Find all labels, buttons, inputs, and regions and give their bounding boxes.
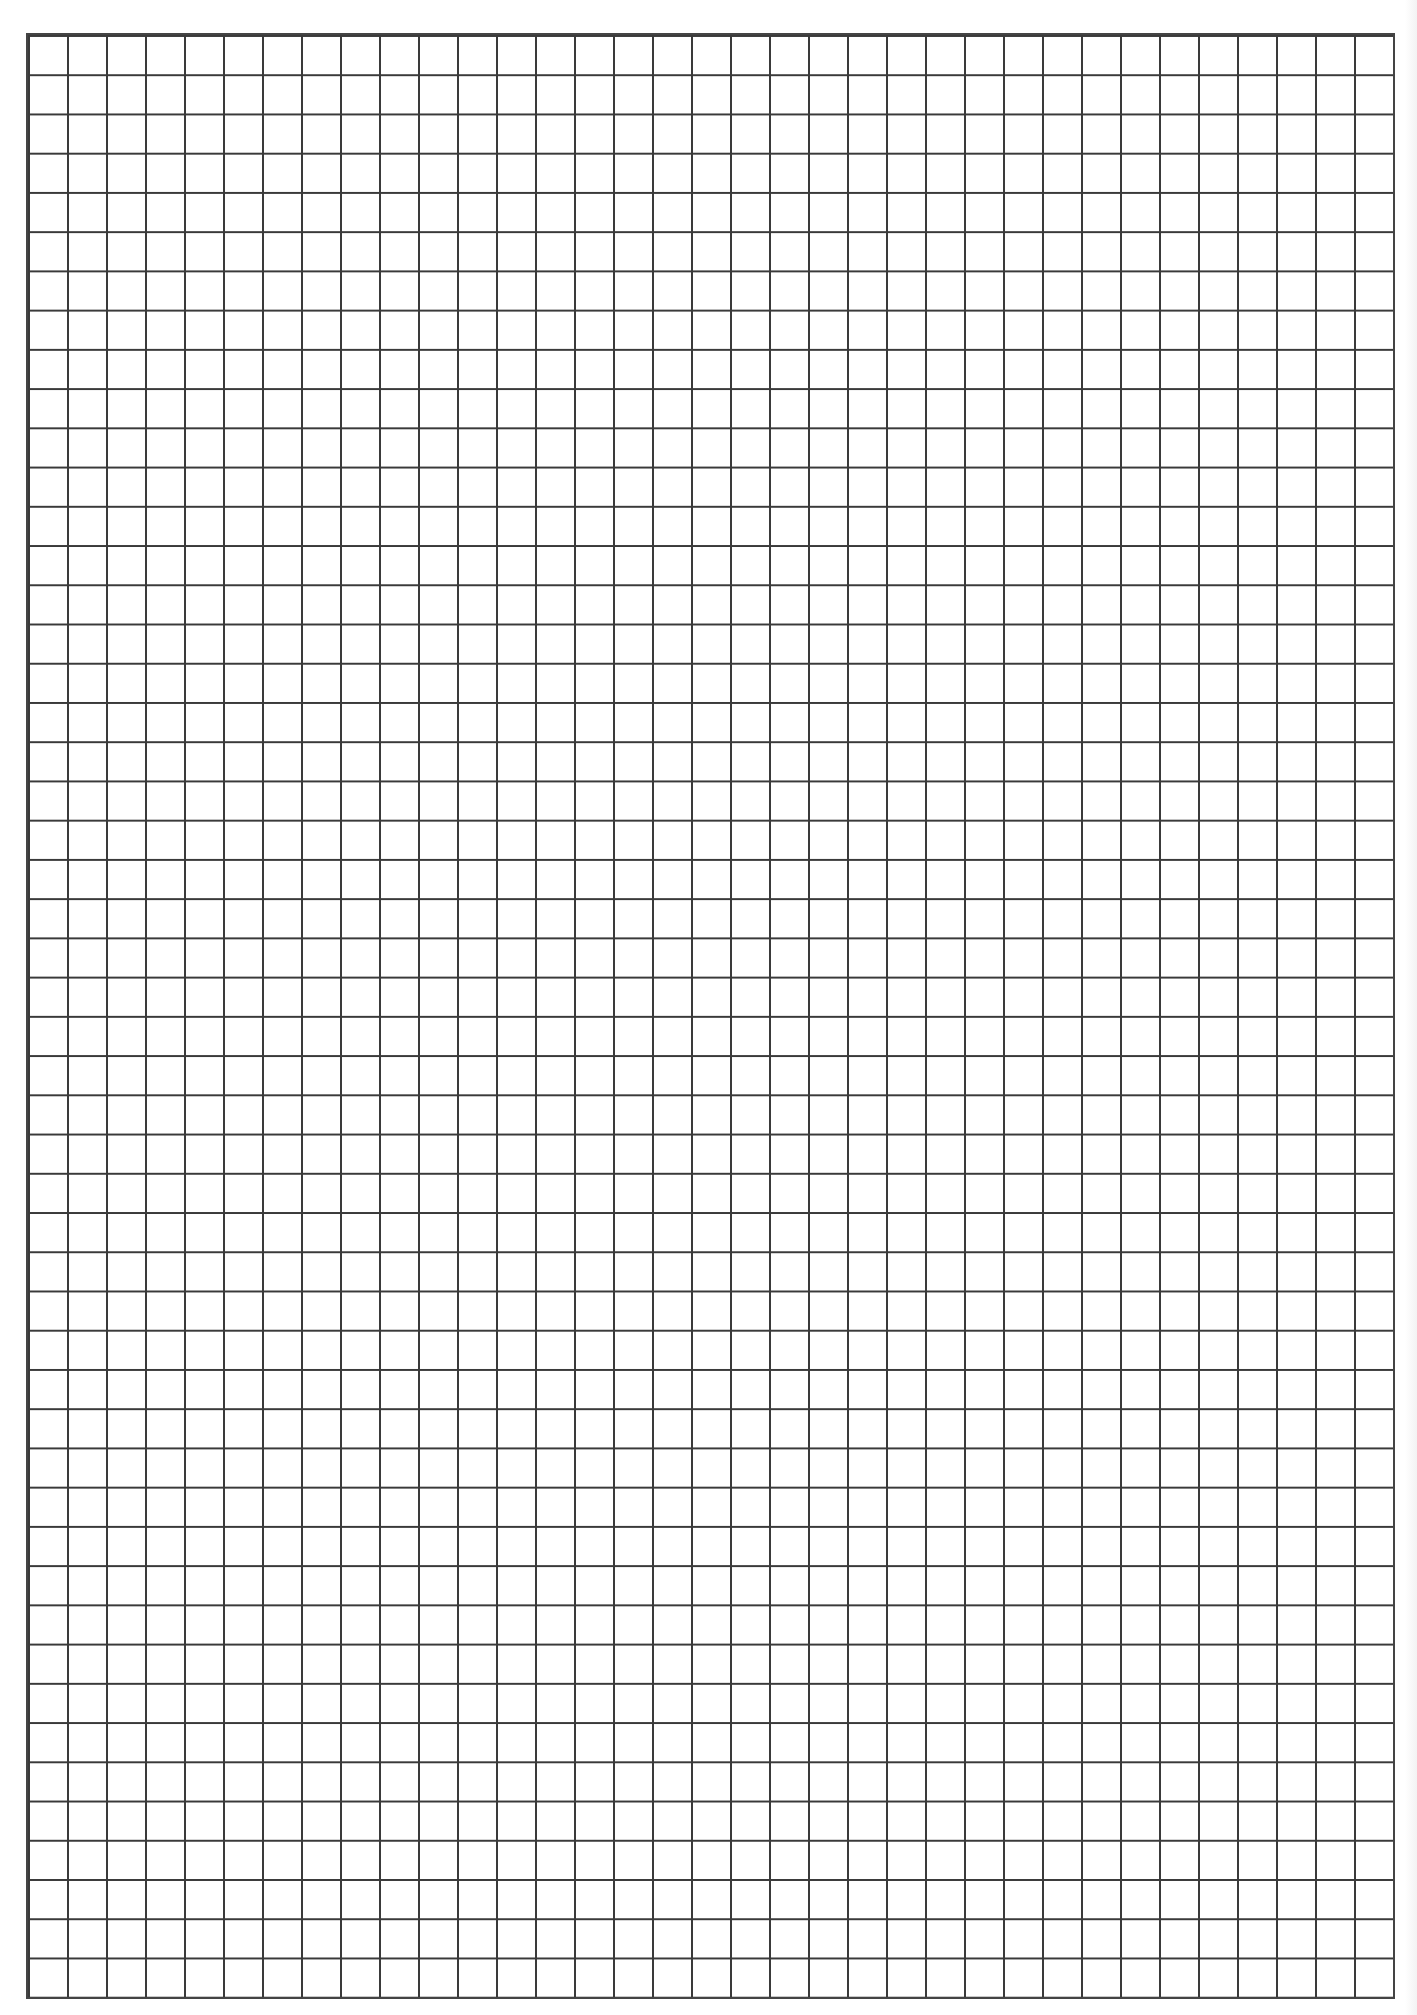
graph-paper-grid xyxy=(26,33,1395,1999)
page-edge-shadow xyxy=(1405,0,1417,2015)
